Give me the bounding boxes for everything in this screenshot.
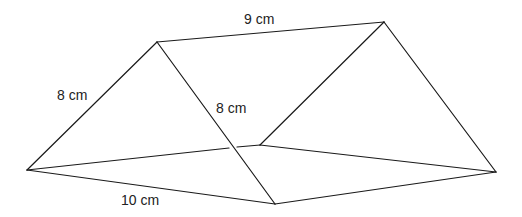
edge-back-left-slant [260, 22, 384, 145]
label-base: 10 cm [121, 192, 159, 208]
edge-back-base [260, 145, 496, 172]
edge-back-right-slant [384, 22, 496, 172]
prism-diagram: 9 cm 8 cm 8 cm 10 cm [0, 0, 522, 217]
label-ridge: 9 cm [244, 11, 274, 27]
edge-right-base [275, 172, 496, 204]
prism-svg: 9 cm 8 cm 8 cm 10 cm [0, 0, 522, 217]
edge-left-base-b [237, 145, 260, 147]
edge-left-base-a [27, 148, 229, 170]
label-right-slant: 8 cm [216, 100, 246, 116]
edge-front-right-slant [157, 42, 275, 204]
label-left-slant: 8 cm [57, 87, 87, 103]
edge-front-left-slant [27, 42, 157, 170]
